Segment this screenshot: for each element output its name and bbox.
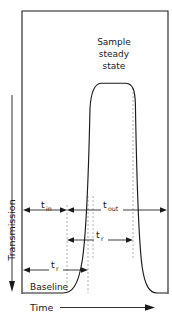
t-r-upper-label-subscript: r	[101, 235, 104, 242]
t-r-lower-label-base: t	[51, 259, 55, 270]
t-r-upper-label-base: t	[96, 229, 100, 240]
t-out-label-subscript: out	[108, 205, 119, 212]
baseline-label: Baseline	[30, 282, 69, 292]
plateau-caption-line1: Sample	[97, 37, 131, 47]
y-axis-label: Transmission	[6, 199, 17, 261]
t-r-lower-label-subscript: r	[56, 265, 59, 272]
plateau-caption-line3: state	[103, 61, 126, 71]
plateau-caption-line2: steady	[99, 49, 130, 59]
baseline-caption: Baseline	[30, 282, 69, 292]
x-axis-label: Time	[29, 302, 53, 313]
t-in-label-subscript: in	[46, 205, 52, 212]
transmission-time-figure: Transmission Time Sample steady state Ba…	[0, 0, 172, 319]
figure-background	[0, 0, 172, 319]
t-in-label-base: t	[41, 199, 45, 210]
t-out-label-base: t	[103, 199, 107, 210]
